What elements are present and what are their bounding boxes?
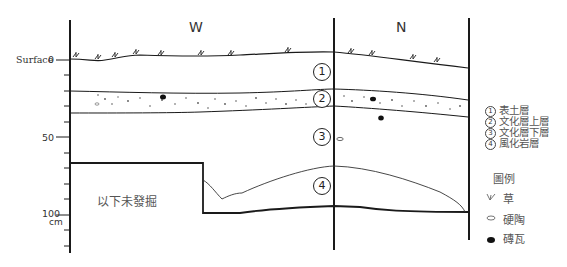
layer2-top (70, 89, 468, 100)
unexcavated-note: 以下未發掘 (97, 196, 157, 208)
legend-item-grass: 草 (503, 190, 514, 206)
layer-key-row-4: 4風化岩層 (485, 135, 539, 150)
direction-west: W (189, 20, 203, 34)
layer-marker-2: 2 (313, 90, 331, 108)
section-diagram: W N Surface 0 50 100 cm 以下未發掘 1 2 3 4 1表… (0, 0, 567, 267)
legend-title: 圖例 (493, 170, 515, 186)
legend-item-brick-tile: 磚瓦 (503, 230, 525, 246)
pottery-icon (485, 213, 497, 223)
grass-icon (485, 192, 497, 202)
direction-north: N (396, 20, 406, 34)
pottery-find (337, 137, 343, 140)
layer-marker-4: 4 (313, 177, 331, 195)
depth-50-label: 50 (42, 133, 54, 143)
brick-tile-icon (485, 235, 497, 245)
layer-marker-1: 1 (313, 63, 331, 81)
depth-0-label: 0 (48, 55, 54, 65)
depth-unit-label: cm (49, 218, 63, 227)
layer-marker-3: 3 (313, 128, 331, 146)
gravel-dots (95, 94, 461, 110)
layer2-bottom (70, 106, 468, 117)
brick-tile-finds (160, 95, 166, 100)
section-drawing (0, 0, 567, 267)
surface-line (70, 52, 468, 68)
legend-item-pottery: 硬陶 (503, 211, 525, 227)
